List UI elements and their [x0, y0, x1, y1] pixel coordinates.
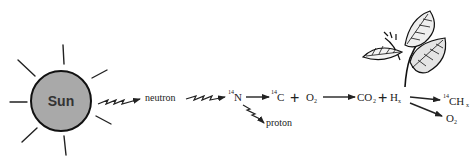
nitrogen-to-proton-arrow: [243, 105, 264, 123]
carbon-14-formation-diagram: Sun neutron 14 N proton 14 C + O 2 CO 2 …: [0, 0, 476, 160]
svg-text:N: N: [234, 91, 242, 103]
to-oxygen-arrow: [410, 103, 442, 116]
svg-text:x: x: [466, 102, 469, 108]
oxygen-output: O 2: [446, 112, 457, 125]
to-chx-arrow: [410, 97, 440, 100]
plus-sign-1: +: [290, 89, 299, 106]
svg-text:2: 2: [373, 98, 376, 104]
carbon-14: 14 C: [271, 89, 284, 103]
nitrogen-14: 14 N: [228, 89, 242, 103]
hydrogen-x: H x: [390, 91, 401, 104]
svg-text:C: C: [277, 91, 284, 103]
proton-label: proton: [266, 117, 292, 128]
svg-text:2: 2: [454, 119, 457, 125]
sun-label: Sun: [48, 93, 74, 109]
svg-text:O: O: [306, 91, 314, 103]
svg-text:O: O: [446, 112, 454, 124]
sun: Sun: [10, 45, 111, 155]
svg-text:2: 2: [314, 98, 317, 104]
carbohydrate-14: 14 CH x: [443, 93, 469, 108]
leaf-sprig-icon: [363, 11, 446, 87]
carbon-dioxide: CO 2: [357, 91, 376, 104]
radiation-arrow-1: [98, 99, 140, 104]
oxygen: O 2: [306, 91, 317, 104]
svg-text:CH: CH: [449, 95, 464, 107]
neutron-arrow: [186, 96, 225, 100]
svg-text:H: H: [390, 91, 398, 103]
svg-text:CO: CO: [357, 91, 372, 103]
plus-sign-2: +: [378, 89, 387, 106]
svg-text:x: x: [398, 98, 401, 104]
neutron-label: neutron: [145, 92, 176, 103]
